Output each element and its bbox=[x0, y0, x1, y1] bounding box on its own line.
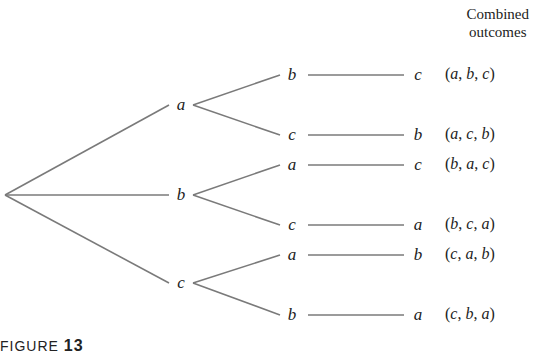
combined-outcome: (c, b, a) bbox=[445, 306, 495, 322]
node-level3-b: b bbox=[414, 126, 423, 143]
node-level2-c: c bbox=[288, 126, 296, 143]
node-level2-a: a bbox=[288, 246, 297, 263]
figure-caption: FIGURE 13 bbox=[0, 337, 84, 355]
combined-outcome: (a, b, c) bbox=[445, 66, 495, 82]
node-level3-a: a bbox=[414, 306, 423, 323]
node-level1-a: a bbox=[177, 96, 186, 113]
combined-outcomes-header: Combined outcomes bbox=[467, 5, 530, 41]
branch-c-to-b bbox=[193, 283, 280, 315]
node-level3-b: b bbox=[414, 246, 423, 263]
branch-b-to-c bbox=[193, 195, 280, 225]
header-line-2: outcomes bbox=[467, 23, 530, 41]
node-level3-c: c bbox=[414, 66, 422, 83]
node-level2-b: b bbox=[288, 66, 297, 83]
caption-prefix: FIGURE bbox=[0, 338, 59, 354]
branch-a-to-b bbox=[193, 75, 280, 105]
node-level1-c: c bbox=[177, 274, 185, 291]
combined-outcome: (c, a, b) bbox=[445, 246, 495, 262]
branch-c-to-a bbox=[193, 255, 280, 283]
combined-outcome: (b, c, a) bbox=[445, 216, 495, 232]
combined-outcome: (a, c, b) bbox=[445, 126, 495, 142]
node-level3-a: a bbox=[414, 216, 423, 233]
node-level2-c: c bbox=[288, 216, 296, 233]
combined-outcome: (b, a, c) bbox=[445, 156, 495, 172]
node-level2-b: b bbox=[288, 306, 297, 323]
node-level2-a: a bbox=[288, 156, 297, 173]
node-level1-b: b bbox=[177, 186, 186, 203]
caption-number: 13 bbox=[64, 337, 84, 354]
branch-root-to-c bbox=[5, 195, 169, 283]
branch-root-to-a bbox=[5, 105, 169, 195]
branch-b-to-a bbox=[193, 165, 280, 195]
header-line-1: Combined bbox=[467, 5, 530, 23]
node-level3-c: c bbox=[414, 156, 422, 173]
branch-a-to-c bbox=[193, 105, 280, 135]
